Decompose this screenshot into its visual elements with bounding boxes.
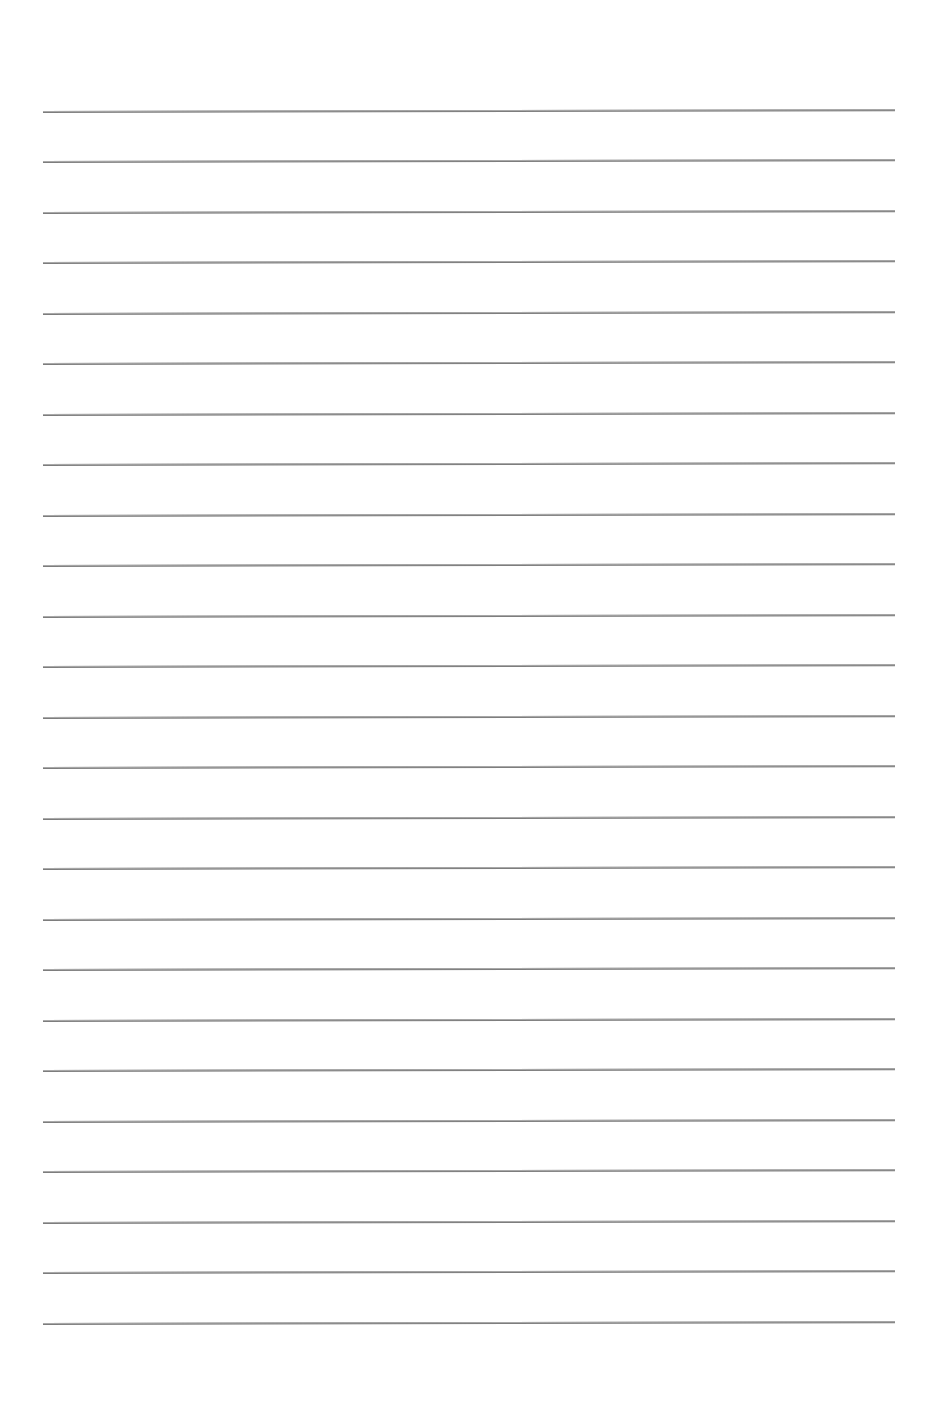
ruled-line <box>43 462 895 466</box>
ruled-line <box>43 311 895 315</box>
ruled-line <box>43 816 895 820</box>
ruled-line <box>43 1321 895 1325</box>
ruled-line <box>43 361 895 365</box>
ruled-line <box>43 1119 895 1123</box>
ruled-line <box>43 1169 895 1173</box>
ruled-line <box>43 664 895 668</box>
lined-paper-page <box>0 0 934 1405</box>
ruled-line <box>43 210 895 214</box>
ruled-line <box>43 513 895 517</box>
ruled-line <box>43 260 895 264</box>
ruled-line <box>43 109 895 113</box>
ruled-line <box>43 917 895 921</box>
ruled-line <box>43 159 895 163</box>
ruled-line <box>43 614 895 618</box>
ruled-line <box>43 1018 895 1022</box>
ruled-line <box>43 866 895 870</box>
ruled-line <box>43 715 895 719</box>
ruled-line <box>43 412 895 416</box>
ruled-line <box>43 1220 895 1224</box>
ruled-line <box>43 1068 895 1072</box>
ruled-line <box>43 765 895 769</box>
ruled-line <box>43 1270 895 1274</box>
ruled-line <box>43 967 895 971</box>
ruled-line <box>43 563 895 567</box>
